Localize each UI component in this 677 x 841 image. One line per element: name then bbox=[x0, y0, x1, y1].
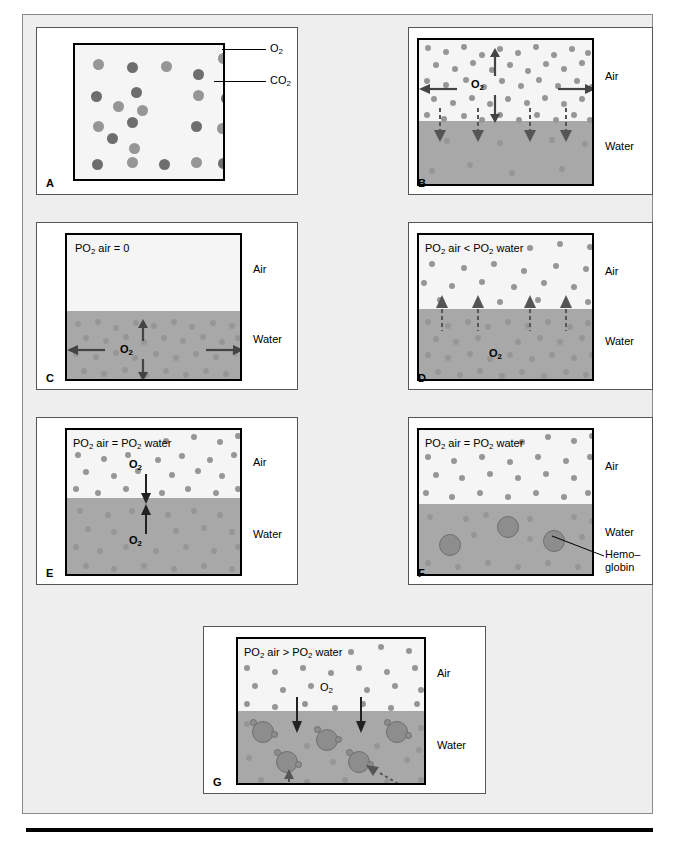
molecule-o2 bbox=[536, 77, 542, 83]
molecule-o2 bbox=[452, 66, 458, 72]
molecule-o2 bbox=[304, 743, 310, 749]
molecule-o2 bbox=[529, 356, 535, 362]
molecule-o2 bbox=[535, 454, 541, 460]
hemoglobin-label-line2: globin bbox=[605, 561, 640, 574]
molecule-o2 bbox=[378, 644, 384, 650]
panel-letter-b: B bbox=[418, 177, 426, 189]
molecule-o2 bbox=[93, 121, 104, 132]
molecule-o2 bbox=[179, 453, 185, 459]
molecule-o2 bbox=[433, 336, 439, 342]
molecule-o2 bbox=[477, 490, 483, 496]
molecule-o2 bbox=[83, 563, 89, 569]
molecule-o2 bbox=[97, 548, 103, 554]
arrow-o2-vertical bbox=[487, 48, 503, 123]
leader-line-o2 bbox=[222, 49, 266, 50]
molecule-o2 bbox=[348, 649, 354, 655]
molecule-o2 bbox=[561, 66, 567, 72]
legend-co2-text: CO bbox=[270, 74, 287, 86]
molecule-o2 bbox=[589, 352, 594, 358]
molecule-o2 bbox=[427, 514, 433, 520]
molecule-co2 bbox=[91, 91, 102, 102]
molecule-o2 bbox=[404, 757, 410, 763]
air-label: Air bbox=[605, 460, 618, 472]
molecule-o2 bbox=[433, 472, 439, 478]
molecule-o2 bbox=[461, 113, 467, 119]
molecule-o2 bbox=[485, 324, 491, 330]
panel-b: O2 Air Water B bbox=[408, 27, 653, 195]
hemoglobin-bound-o2 bbox=[295, 761, 302, 768]
molecule-o2 bbox=[425, 45, 431, 51]
molecule-o2 bbox=[467, 351, 473, 357]
panel-b-box: O2 bbox=[417, 38, 594, 186]
molecule-o2 bbox=[235, 433, 241, 439]
molecule-o2 bbox=[527, 245, 533, 251]
hemoglobin-bound-o2 bbox=[271, 731, 278, 738]
molecule-o2 bbox=[587, 454, 593, 460]
molecule-o2 bbox=[73, 486, 79, 492]
o2-label-sub: 2 bbox=[329, 686, 333, 695]
condition-label: PO2 air < PO2 water bbox=[425, 242, 523, 256]
hemoglobin-bound-o2 bbox=[274, 749, 281, 756]
molecule-o2 bbox=[217, 512, 223, 518]
molecule-o2 bbox=[111, 566, 117, 572]
o2-label: O2 bbox=[120, 343, 133, 357]
molecule-o2 bbox=[173, 355, 179, 361]
molecule-o2 bbox=[123, 334, 129, 340]
molecule-o2 bbox=[113, 101, 124, 112]
molecule-o2 bbox=[571, 514, 577, 520]
molecule-o2 bbox=[483, 512, 489, 518]
panel-e-box: PO2 air = PO2 water bbox=[65, 428, 242, 576]
molecule-o2 bbox=[364, 687, 370, 693]
molecule-o2 bbox=[75, 321, 81, 327]
molecule-o2 bbox=[193, 351, 199, 357]
arrow-dashed-binding-1 bbox=[282, 769, 296, 785]
panel-letter-f: F bbox=[418, 567, 425, 579]
molecule-o2 bbox=[163, 368, 169, 374]
molecule-o2 bbox=[433, 62, 439, 68]
o2-label-water-sub: 2 bbox=[138, 539, 142, 548]
o2-label: O2 bbox=[471, 78, 484, 92]
legend-label-co2: CO2 bbox=[270, 74, 291, 88]
molecule-o2 bbox=[479, 454, 485, 460]
molecule-o2 bbox=[418, 777, 424, 783]
molecule-o2 bbox=[477, 368, 483, 374]
molecule-o2 bbox=[244, 721, 250, 727]
molecule-o2 bbox=[557, 241, 563, 247]
molecule-o2 bbox=[235, 486, 241, 492]
molecule-o2 bbox=[392, 683, 398, 689]
molecule-o2 bbox=[497, 140, 503, 146]
arrow-right bbox=[556, 82, 594, 96]
molecule-o2 bbox=[467, 162, 473, 168]
molecule-o2 bbox=[553, 263, 559, 269]
bottom-rule bbox=[26, 828, 653, 832]
arrow-dashed-up-3 bbox=[523, 295, 537, 331]
o2-label: O2 bbox=[320, 681, 333, 695]
molecule-o2 bbox=[183, 372, 189, 378]
molecule-o2 bbox=[487, 471, 493, 477]
molecule-o2 bbox=[543, 61, 549, 67]
molecule-o2 bbox=[561, 494, 567, 500]
molecule-o2 bbox=[583, 372, 589, 378]
molecule-o2 bbox=[450, 100, 456, 106]
molecule-o2 bbox=[515, 475, 521, 481]
arrow-dashed-down-1 bbox=[433, 108, 447, 142]
panel-letter-g: G bbox=[213, 776, 222, 788]
panel-c: PO2 air = 0 bbox=[36, 222, 298, 390]
molecule-o2 bbox=[515, 339, 521, 345]
o2-label-text: O bbox=[489, 347, 498, 359]
molecule-o2 bbox=[203, 368, 209, 374]
water-label: Water bbox=[253, 528, 282, 540]
molecule-co2 bbox=[191, 121, 202, 132]
molecule-o2 bbox=[229, 566, 235, 572]
arrow-up-into-air bbox=[139, 504, 153, 534]
molecule-o2 bbox=[542, 95, 548, 101]
molecule-o2 bbox=[129, 143, 140, 154]
molecule-o2 bbox=[589, 433, 594, 439]
water-label: Water bbox=[605, 140, 634, 152]
molecule-o2 bbox=[414, 701, 420, 707]
molecule-o2 bbox=[258, 777, 264, 783]
molecule-o2 bbox=[171, 319, 177, 325]
o2-label-sub: 2 bbox=[129, 348, 133, 357]
panel-g-box: PO2 air > PO2 water bbox=[236, 637, 426, 785]
molecule-co2 bbox=[127, 62, 138, 73]
